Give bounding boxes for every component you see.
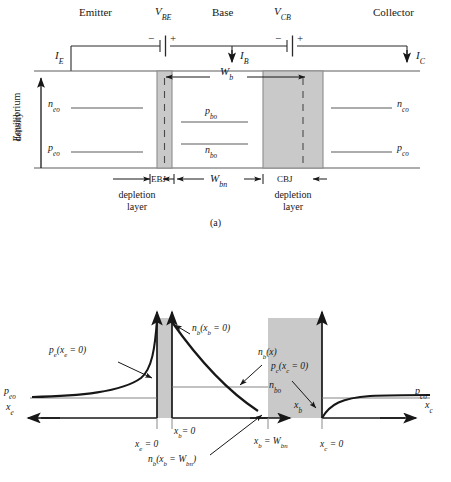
nb0-tail-sub: b (208, 329, 211, 336)
pc-sub: c (276, 367, 279, 374)
density-label-nbo: nbo (205, 145, 217, 158)
density-label-pco: pco (397, 143, 409, 156)
vbe-base: V (155, 5, 162, 17)
wbn-base: W (210, 172, 219, 184)
nb0-tail: (x (200, 323, 207, 333)
ib-sub: B (244, 57, 249, 66)
polarity-plus-vcb: + (297, 33, 303, 44)
density-level-lines (71, 108, 392, 152)
device-outline (34, 71, 420, 168)
nbw-tail2: = W (167, 454, 186, 464)
txbw-sub: b (258, 442, 261, 449)
wb-base: W (220, 65, 229, 77)
junction-label-cbj: CBJ (277, 175, 293, 184)
battery-symbol-vcb (287, 36, 293, 57)
ebj-depletion-layer-b (157, 318, 172, 418)
panel-a-caption: (a) (210, 218, 221, 228)
polarity-minus-vcb: − (275, 33, 281, 44)
nbo-sub: bo (210, 152, 217, 160)
current-label-ib: IB (240, 50, 249, 64)
battery-symbol-vbe (160, 36, 170, 57)
region-label-base: Base (212, 7, 233, 18)
nco-sub: co (402, 106, 409, 114)
equilibrium-label-nbo-b: nbo (269, 380, 281, 393)
depletion-caption-ebj-line1: depletion (101, 190, 173, 200)
ic-sub: C (420, 57, 425, 66)
txc-tail: = 0 (327, 439, 343, 449)
pc-tail2: = 0) (289, 361, 308, 371)
nbw-tail: (x (156, 454, 163, 464)
nbw-tail-sub: b (164, 460, 167, 467)
width-label-wbn: Wbn (210, 173, 227, 187)
pbo-sub: bo (210, 113, 217, 121)
pc-tail-sub: c (286, 367, 289, 374)
nbw-tail3-sub: bn (186, 460, 193, 467)
vcb-base: V (274, 5, 281, 17)
nb0-tail2: = 0) (211, 323, 230, 333)
curve-label-pc-xc0: pc(xc = 0) (271, 362, 308, 374)
ie-sub: E (59, 57, 64, 66)
pe-sub: e (54, 351, 57, 358)
curve-label-pe-xe0: pe(xe = 0) (49, 346, 86, 358)
nbw-sub: b (153, 460, 156, 467)
pe-profile-curve (32, 320, 157, 397)
density-label-nco: nco (397, 99, 409, 112)
txb-tail: = 0 (182, 426, 196, 436)
curve-label-nb-x: nb(x) (258, 348, 277, 360)
xe-sub: e (10, 409, 13, 417)
depletion-caption-cbj-line1: depletion (257, 190, 329, 200)
nb0-sub: b (197, 329, 200, 336)
region-label-emitter: Emitter (79, 7, 112, 18)
axis-label-xc: xc (425, 400, 433, 413)
voltage-label-vbe: VBE (155, 6, 171, 20)
density-label-neo: neo (48, 99, 60, 112)
equilibrium-label-pco-b: pco (415, 386, 427, 399)
depletion-caption-cbj-line2: layer (257, 202, 329, 212)
peo-sub: eo (53, 150, 60, 158)
vbe-sub: BE (162, 13, 172, 22)
xc-sub: c (429, 407, 432, 415)
txe-tail: = 0 (142, 439, 158, 449)
tick-label-xb-0: xb= 0 (174, 427, 195, 439)
panel-a-graphics (34, 36, 420, 185)
circuit-wiring (71, 46, 407, 71)
curve-label-nb-xb-wbn: nb(xb = Wbn) (148, 455, 196, 467)
current-label-ie: IE (55, 50, 64, 64)
nbx-tail: (x) (266, 347, 277, 357)
tick-label-xe-0: xe = 0 (135, 440, 158, 452)
txbw-tail-sub: bn (281, 442, 288, 449)
equilibrium-label-peo-b: peo (4, 386, 16, 399)
figure-container: Emitter Base Collector VBE VCB − + − + I… (0, 0, 451, 482)
pco-sub: co (402, 150, 409, 158)
width-label-wb: Wb (220, 66, 233, 80)
txbw-tail: = W (262, 436, 281, 446)
vcb-sub: CB (281, 13, 291, 22)
depletion-caption-ebj-line2: layer (101, 202, 173, 212)
cbj-depletion-layer (263, 71, 323, 168)
y-axis-label-line2: density (13, 101, 23, 153)
nbw-tail4: ) (193, 454, 196, 464)
pe-tail-sub: e (64, 351, 67, 358)
txb-sub: b (178, 432, 181, 439)
axis-label-xb: xb (294, 400, 302, 413)
tick-label-xc-0: xc = 0 (320, 440, 343, 452)
junction-label-ebj: EBJ (151, 175, 166, 184)
wb-sub: b (229, 73, 233, 82)
current-label-ic: IC (416, 50, 425, 64)
xb-sub: b (298, 407, 302, 415)
peob-sub: eo (9, 393, 16, 401)
nbob-sub: bo (274, 387, 281, 395)
txc-sub: c (324, 445, 327, 452)
curve-label-nb-xb0: nb(xb = 0) (192, 324, 230, 336)
density-label-pbo: pbo (205, 106, 217, 119)
nbx-sub: b (263, 353, 266, 360)
polarity-plus-vbe: + (170, 33, 176, 44)
polarity-minus-vbe: − (148, 33, 154, 44)
tick-label-xb-wbn: xb = Wbn (254, 437, 288, 449)
pc-profile-curve (322, 395, 430, 418)
neo-sub: eo (53, 106, 60, 114)
region-label-collector: Collector (373, 7, 414, 18)
txe-sub: e (139, 445, 142, 452)
wbn-sub: bn (219, 180, 227, 189)
pe-tail2: = 0) (67, 345, 86, 355)
